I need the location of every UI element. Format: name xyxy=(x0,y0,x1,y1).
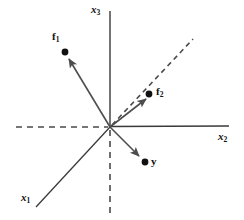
axis-line-x2 xyxy=(109,126,229,127)
point-y xyxy=(142,159,149,166)
axis-label-x1: x1 xyxy=(21,192,30,205)
vector-label-f1: f1 xyxy=(52,31,59,44)
vector-label-y-main: y xyxy=(151,155,157,167)
dashed-axis-x1-negative xyxy=(112,39,193,125)
vector-arrow-y xyxy=(110,127,139,156)
vector-label-f2: f2 xyxy=(156,86,163,99)
vector-label-f2-sub: 2 xyxy=(160,90,164,99)
point-f1 xyxy=(62,49,69,56)
point-f2 xyxy=(146,91,153,98)
vector-label-y: y xyxy=(151,156,157,169)
axis-label-x2: x2 xyxy=(218,131,227,144)
axis-label-x3: x3 xyxy=(91,4,100,17)
axis-line-x1 xyxy=(36,127,110,207)
points-group xyxy=(62,49,153,166)
axis-label-x2-sub: 2 xyxy=(224,135,228,144)
axis-label-x1-sub: 1 xyxy=(27,196,31,205)
vector-arrow-f1 xyxy=(69,59,110,127)
axis-label-x3-sub: 3 xyxy=(97,8,101,17)
vector-arrow-f2 xyxy=(110,99,146,127)
diagram-canvas xyxy=(0,0,244,220)
vector-label-f1-sub: 1 xyxy=(56,35,60,44)
vector-diagram-figure: x3 x2 x1 f1 f2 y xyxy=(0,0,244,220)
vectors-group xyxy=(69,59,146,156)
